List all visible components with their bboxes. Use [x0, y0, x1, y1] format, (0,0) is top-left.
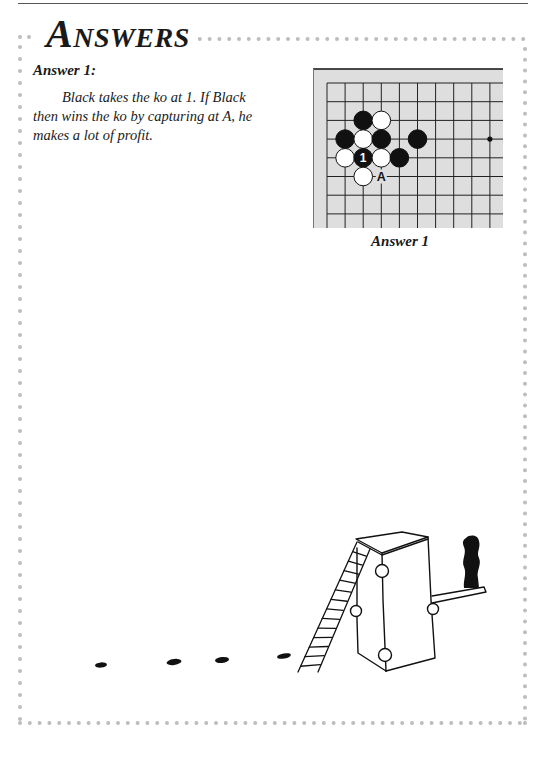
side-platform [432, 587, 486, 603]
footprints [95, 652, 292, 668]
window-circle [376, 565, 389, 578]
footprint [215, 656, 230, 663]
footprint [166, 658, 182, 666]
footprint [95, 662, 107, 668]
window-circle [379, 649, 392, 662]
window-circle [351, 606, 362, 617]
box-right-edge [386, 537, 435, 671]
footprint [277, 652, 292, 660]
treehouse-illustration [0, 0, 548, 764]
chimney-smoke [463, 536, 480, 588]
window-circle [428, 604, 439, 615]
